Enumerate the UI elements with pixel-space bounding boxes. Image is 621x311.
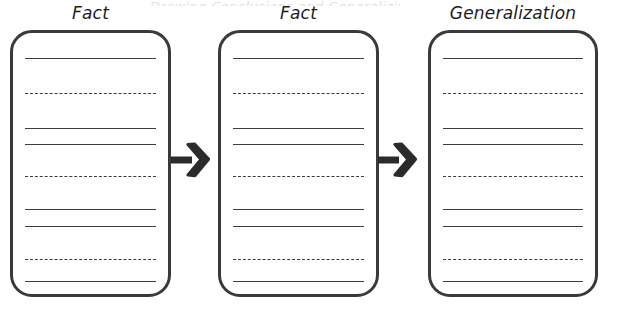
- writing-lines-fact-2: [221, 33, 376, 294]
- writing-line-solid: [233, 209, 364, 210]
- writing-line-dashed: [25, 259, 156, 260]
- writing-line-solid: [233, 281, 364, 282]
- panel-label-fact-2: Fact: [218, 2, 379, 24]
- writing-line-dashed: [25, 176, 156, 177]
- writing-line-dashed: [443, 93, 583, 94]
- writing-line-dashed: [25, 93, 156, 94]
- writing-line-solid: [25, 128, 156, 129]
- writing-line-solid: [25, 144, 156, 145]
- writing-line-solid: [443, 281, 583, 282]
- writing-line-solid: [233, 58, 364, 59]
- writing-line-solid: [443, 58, 583, 59]
- writing-line-dashed: [443, 176, 583, 177]
- writing-line-dashed: [233, 93, 364, 94]
- arrow-right-icon-1: [171, 141, 211, 179]
- panel-box-generalization[interactable]: [428, 30, 598, 297]
- panel-label-generalization: Generalization: [428, 2, 598, 24]
- writing-line-dashed: [443, 259, 583, 260]
- writing-line-solid: [233, 226, 364, 227]
- writing-line-solid: [25, 209, 156, 210]
- writing-line-dashed: [233, 176, 364, 177]
- writing-line-solid: [443, 226, 583, 227]
- arrow-right-icon-2: [378, 141, 418, 179]
- writing-line-solid: [443, 209, 583, 210]
- writing-line-solid: [443, 144, 583, 145]
- writing-line-solid: [25, 58, 156, 59]
- panel-label-fact-1: Fact: [10, 2, 171, 24]
- graphic-organizer: Drawing Conclusions and Generalizing Fac…: [0, 0, 621, 311]
- writing-line-solid: [25, 226, 156, 227]
- panel-fact-2: Fact: [218, 0, 379, 311]
- panel-box-fact-2[interactable]: [218, 30, 379, 297]
- writing-lines-generalization: [431, 33, 595, 294]
- writing-line-dashed: [233, 259, 364, 260]
- panel-generalization: Generalization: [428, 0, 598, 311]
- writing-line-solid: [233, 128, 364, 129]
- writing-line-solid: [443, 128, 583, 129]
- panel-fact-1: Fact: [10, 0, 171, 311]
- writing-lines-fact-1: [13, 33, 168, 294]
- writing-line-solid: [25, 281, 156, 282]
- writing-line-solid: [233, 144, 364, 145]
- panel-box-fact-1[interactable]: [10, 30, 171, 297]
